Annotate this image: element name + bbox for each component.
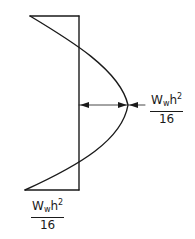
label-numerator: Wwh2	[31, 196, 64, 218]
arrow-inbound-icon	[129, 102, 138, 108]
label-denominator: 16	[150, 112, 183, 126]
moment-curve	[25, 16, 128, 190]
label-numerator: Wwh2	[150, 90, 183, 112]
end-moment-label: Wwh2 16	[31, 196, 64, 232]
midspan-moment-label: Wwh2 16	[150, 90, 183, 126]
label-denominator: 16	[31, 218, 64, 232]
arrow-right-icon	[118, 102, 127, 108]
arrow-left-icon	[80, 102, 89, 108]
